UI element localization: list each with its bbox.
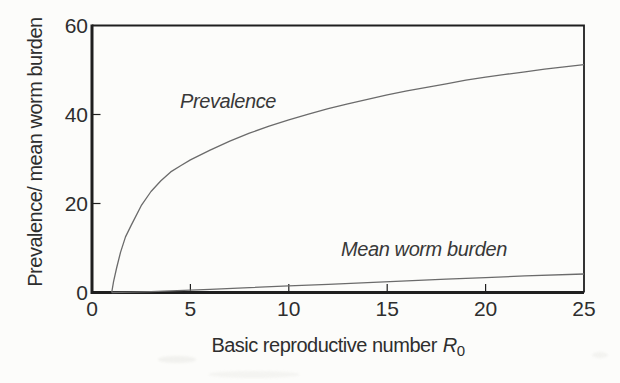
y-tick-label: 20 (65, 192, 88, 215)
x-tick-label: 10 (277, 297, 300, 320)
x-axis-title-symbol: R (443, 334, 457, 356)
x-axis-title-text: Basic reproductive number (211, 334, 437, 356)
worm-burden-chart-figure: 05101520250204060 Prevalence/ mean worm … (0, 0, 620, 383)
plot-area: 05101520250204060 (65, 14, 596, 321)
x-tick-label: 20 (474, 297, 497, 320)
mean-worm-burden-curve-label: Mean worm burden (341, 238, 507, 260)
x-axis-title: Basic reproductive numberR0 (211, 334, 464, 359)
y-axis-title: Prevalence/ mean worm burden (24, 17, 46, 286)
axis-left-bottom (92, 25, 584, 293)
x-tick-label: 5 (185, 297, 197, 320)
axis-top-right (92, 26, 584, 293)
x-axis-title-subscript: 0 (457, 342, 465, 359)
mean-worm-burden-curve (112, 274, 584, 293)
x-tick-label: 15 (376, 297, 399, 320)
y-tick-label: 40 (65, 103, 88, 126)
chart-canvas: 05101520250204060 Prevalence/ mean worm … (0, 0, 620, 383)
y-tick-label: 60 (65, 14, 88, 37)
x-tick-label: 25 (572, 297, 595, 320)
prevalence-curve-label: Prevalence (180, 90, 276, 112)
y-tick-label: 0 (76, 281, 88, 304)
